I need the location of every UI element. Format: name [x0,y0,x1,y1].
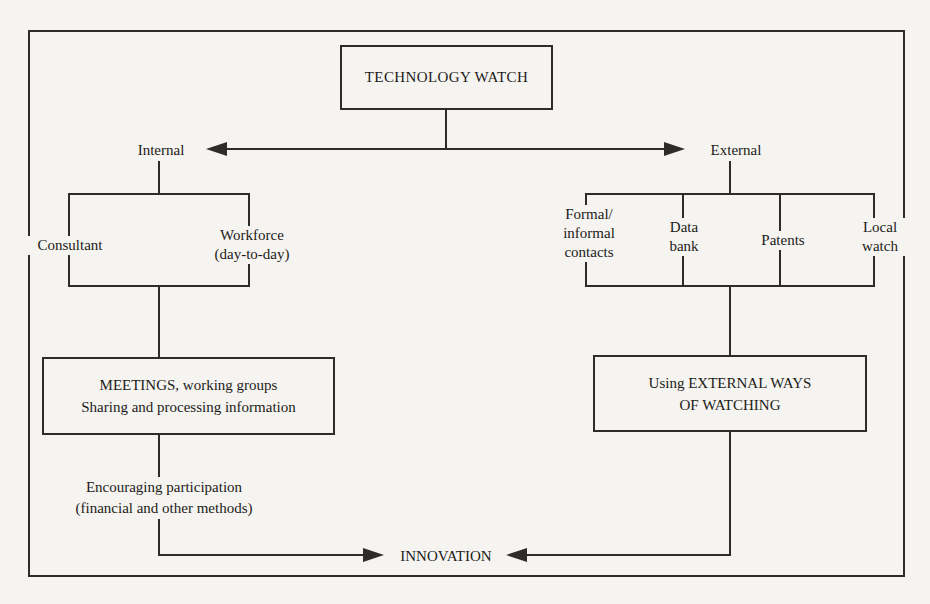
external-to-innovation-drop-line [729,432,731,556]
workforce-line1: Workforce [220,227,284,243]
external-ways-line2: OF WATCHING [680,394,781,416]
encouraging-line1: Encouraging participation [86,479,242,495]
meetings-line2: Sharing and processing information [81,396,296,418]
arrowhead-to-innovation-left-icon [363,548,384,562]
encouraging-participation-label: Encouraging participation (financial and… [44,477,284,519]
encouraging-line2: (financial and other methods) [75,500,252,516]
formal-line2: informal [563,225,615,241]
data-bank-line1: Data [670,219,698,235]
external-bracket-drop-line [729,287,731,355]
meetings-drop-line [158,435,160,479]
formal-line3: contacts [564,244,613,260]
data-bank-label: Data bank [656,218,712,256]
internal-label: Internal [119,141,203,160]
external-to-innovation-line [524,554,731,556]
workforce-line2: (day-to-day) [215,246,290,262]
meetings-box: MEETINGS, working groups Sharing and pro… [42,357,335,435]
consultant-label: Consultant [26,236,114,255]
local-watch-line2: watch [862,238,898,254]
note-drop-line [158,519,160,556]
formal-line1: Formal/ [565,206,613,222]
external-ways-line1: Using EXTERNAL WAYS [649,372,812,394]
internal-drop-line [158,161,160,193]
split-arrow-line [215,148,677,150]
external-sources-bracket [585,193,875,287]
patents-label: Patents [750,231,816,250]
title-drop-line [445,110,447,150]
technology-watch-label: TECHNOLOGY WATCH [365,69,528,86]
meetings-line1: MEETINGS, working groups [100,374,278,396]
data-bank-line2: bank [669,238,698,254]
workforce-label: Workforce (day-to-day) [200,226,304,264]
arrowhead-to-internal-icon [206,142,227,156]
external-label: External [694,141,778,160]
technology-watch-box: TECHNOLOGY WATCH [340,45,553,110]
arrowhead-to-external-icon [664,142,685,156]
local-watch-line1: Local [863,219,897,235]
internal-bracket-drop-line [158,287,160,357]
innovation-label: INNOVATION [390,547,502,566]
local-watch-label: Local watch [851,218,909,256]
formal-informal-contacts-label: Formal/ informal contacts [552,205,626,262]
external-drop-line [729,161,731,193]
internal-to-innovation-line [158,554,366,556]
scanned-diagram-page: TECHNOLOGY WATCH Internal External Consu… [0,0,930,604]
external-ways-box: Using EXTERNAL WAYS OF WATCHING [593,355,867,432]
